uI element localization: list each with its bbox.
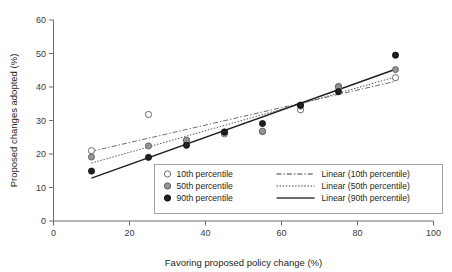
data-point [88,148,94,154]
x-axis-title: Favoring proposed policy change (%) [165,257,322,268]
y-tick-label: 40 [36,82,46,92]
y-tick-label: 0 [41,216,46,226]
data-point [392,75,398,81]
trendline-solid [92,69,396,178]
y-tick-label: 50 [36,49,46,59]
y-tick-label: 20 [36,149,46,159]
data-point [88,168,94,174]
data-point [259,128,265,134]
y-tick-label: 60 [36,15,46,25]
legend-label: 50th percentile [177,181,234,191]
data-point [259,120,265,126]
series-filled-circle [88,52,398,174]
y-tick-label: 30 [36,116,46,126]
data-point [145,111,151,117]
legend-marker-filled-circle [164,195,170,201]
scatter-chart: 0204060801000102030405060Favoring propos… [0,0,452,272]
series-open-circle [88,75,398,154]
legend-label: Linear (50th percentile) [322,181,411,191]
data-point [392,66,398,72]
data-point [335,89,341,95]
plot-area: 0204060801000102030405060Favoring propos… [0,0,452,272]
trendline-dash-dot [92,81,396,151]
series-gray-circle [88,66,398,160]
data-point [297,102,303,108]
x-tick-label: 60 [276,228,286,238]
data-point [145,143,151,149]
x-tick-label: 80 [352,228,362,238]
x-tick-label: 20 [124,228,134,238]
data-point [221,129,227,135]
legend-label: Linear (10th percentile) [322,169,411,179]
x-tick-label: 100 [426,228,441,238]
data-point [183,142,189,148]
legend-marker-open-circle [164,171,170,177]
trendline-dotted [92,77,396,163]
legend-label: 10th percentile [177,169,234,179]
x-tick-label: 40 [200,228,210,238]
legend-marker-gray-circle [164,183,170,189]
legend-label: Linear (90th percentile) [322,193,411,203]
y-tick-label: 10 [36,183,46,193]
data-point [392,52,398,58]
y-axis-title: Proposed changes adopted (%) [8,54,19,188]
legend-label: 90th percentile [177,193,234,203]
x-tick-label: 0 [51,228,56,238]
data-point [88,154,94,160]
data-point [145,154,151,160]
